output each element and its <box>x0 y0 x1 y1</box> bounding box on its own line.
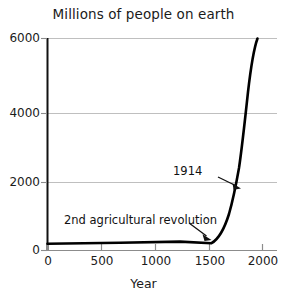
x-tick-label-1500: 1500 <box>190 255 230 267</box>
annotation-1914-label: 1914 <box>173 165 202 177</box>
y-tick-label-6000: 6000 <box>2 32 40 44</box>
x-tick-label-1000: 1000 <box>136 255 176 267</box>
annotation-2nd-agricultural-revolution-label: 2nd agricultural revolution <box>64 214 217 226</box>
y-tick-label-4000: 4000 <box>2 107 40 119</box>
x-axis-title: Year <box>0 276 287 291</box>
chart-figure: Millions of people on earth 6000 4000 20 <box>0 0 287 299</box>
x-tick-label-2000: 2000 <box>243 255 283 267</box>
annotation-agri-arrow-head <box>203 234 212 241</box>
x-tick-label-500: 500 <box>82 255 122 267</box>
x-tick-label-0: 0 <box>28 255 68 267</box>
y-tick-label-2000: 2000 <box>2 176 40 188</box>
